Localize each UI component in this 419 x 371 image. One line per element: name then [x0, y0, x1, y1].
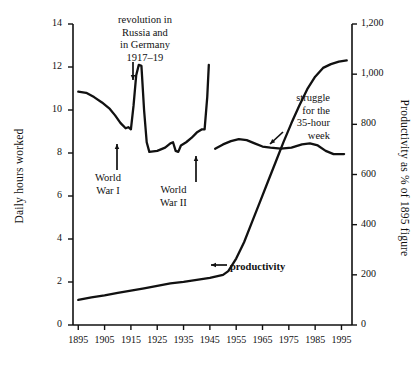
annotation-line: 35-hour — [297, 117, 330, 128]
arrow-head — [194, 156, 198, 161]
annotation-line: struggle — [296, 92, 330, 103]
right-axis-tick-label: 0 — [361, 318, 401, 329]
annotation-line: 1917–19 — [127, 52, 164, 63]
right-axis-tick-label: 200 — [361, 268, 401, 279]
right-axis-tick-label: 600 — [361, 168, 401, 179]
left-axis-tick-label: 8 — [32, 146, 62, 157]
left-axis-tick-label: 2 — [32, 275, 62, 286]
annotation-line: World — [160, 184, 186, 195]
left-axis-tick-label: 12 — [32, 60, 62, 71]
arrow-head — [131, 75, 135, 80]
annotation-line: World — [95, 172, 121, 183]
chart-plot-area — [0, 0, 419, 371]
productivity-label: productivity — [230, 261, 285, 272]
left-axis-tick-label: 14 — [32, 17, 62, 28]
left-axis-tick-label: 10 — [32, 103, 62, 114]
annotation-arrows — [115, 62, 283, 267]
world-war-2-annotation: WorldWar II — [160, 184, 187, 209]
left-axis-title: Daily hours worked — [13, 101, 25, 251]
world-war-1-annotation: WorldWar I — [95, 172, 121, 197]
annotation-line: revolution in — [118, 14, 172, 25]
thirty-five-hour-week-annotation: strugglefor the35-hourweek — [268, 92, 330, 142]
arrow-head — [211, 263, 216, 267]
left-axis-tick-label: 6 — [32, 189, 62, 200]
annotation-line: in Germany — [120, 39, 170, 50]
right-axis-tick-label: 400 — [361, 218, 401, 229]
hours-pre-ww2 — [78, 65, 209, 152]
right-axis-tick-label: 800 — [361, 117, 401, 128]
annotation-line: Russia and — [122, 27, 168, 38]
chart-figure: Daily hours worked Productivity as % of … — [0, 0, 419, 371]
annotation-line: for the — [302, 105, 330, 116]
revolution-annotation: revolution inRussia andin Germany1917–19 — [118, 14, 172, 64]
left-axis-tick-label: 0 — [32, 318, 62, 329]
arrow-head — [115, 144, 119, 149]
revolution-arrow — [131, 62, 135, 80]
right-axis-tick-label: 1,200 — [361, 17, 401, 28]
productivity-arrow — [211, 263, 227, 267]
annotation-line: War I — [96, 185, 119, 196]
right-axis-tick-label: 1,000 — [361, 67, 401, 78]
x-axis-tick-label: 1995 — [324, 334, 358, 345]
annotation-line: week — [308, 130, 330, 141]
annotation-line: War II — [160, 197, 187, 208]
world-war-1-arrow — [115, 144, 119, 170]
world-war-2-arrow — [194, 156, 198, 182]
left-axis-tick-label: 4 — [32, 232, 62, 243]
